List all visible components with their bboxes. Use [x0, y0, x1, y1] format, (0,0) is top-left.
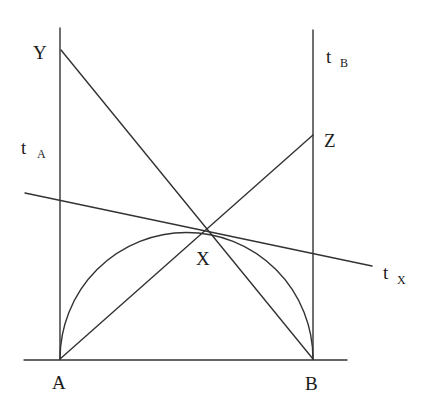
label-Z: Z	[324, 130, 336, 151]
label-A: A	[52, 372, 66, 393]
label-Y: Y	[33, 42, 47, 63]
label-tX-main: t	[383, 262, 389, 283]
label-tB-main: t	[326, 46, 332, 67]
segment-AZ	[60, 135, 313, 359]
segment-YB	[61, 50, 313, 359]
label-X: X	[196, 248, 210, 269]
label-tB-sub: B	[340, 56, 348, 70]
semicircle-AB	[60, 233, 313, 359]
label-B: B	[305, 373, 318, 394]
geometry-diagram: Y Z X A B t A t B t X	[0, 0, 426, 409]
label-tA-sub: A	[37, 147, 46, 161]
label-tA-main: t	[21, 137, 27, 158]
label-tX-sub: X	[397, 273, 406, 287]
